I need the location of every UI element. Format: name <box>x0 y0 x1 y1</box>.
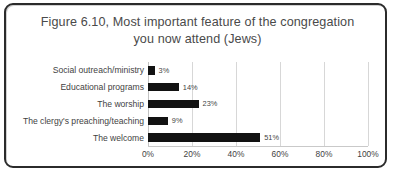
x-tick-label: 80% <box>316 149 333 159</box>
bar-value-label: 51% <box>264 133 279 142</box>
bar-container: 23% <box>148 96 389 113</box>
chart-title: Figure 6.10, Most important feature of t… <box>20 14 375 47</box>
x-axis-line <box>148 146 368 147</box>
bar-row: Educational programs 14% <box>6 79 389 96</box>
bar-row: Social outreach/ministry 3% <box>6 62 389 79</box>
bar-the-welcome <box>148 133 260 141</box>
bar-clergys-preaching-teaching <box>148 117 168 125</box>
chart-title-line-1: Figure 6.10, Most important feature of t… <box>20 14 375 31</box>
bar-rows: Social outreach/ministry 3% Educational … <box>6 62 389 146</box>
bar-value-label: 3% <box>159 66 170 75</box>
bar-container: 51% <box>148 129 389 146</box>
bar-row: The clergy's preaching/teaching 9% <box>6 112 389 129</box>
x-axis-tick-labels: 0% 20% 40% 60% 80% 100% <box>148 149 368 163</box>
category-label: Social outreach/ministry <box>6 65 148 75</box>
bar-row: The welcome 51% <box>6 129 389 146</box>
bar-the-worship <box>148 100 199 108</box>
x-tick-label: 40% <box>228 149 245 159</box>
bar-container: 14% <box>148 79 389 96</box>
plot-area: Social outreach/ministry 3% Educational … <box>6 57 389 167</box>
chart-title-line-2: you now attend (Jews) <box>20 31 375 48</box>
category-label: Educational programs <box>6 82 148 92</box>
bar-value-label: 23% <box>203 99 218 108</box>
x-tick-label: 0% <box>142 149 154 159</box>
category-label: The worship <box>6 99 148 109</box>
bar-value-label: 9% <box>172 116 183 125</box>
bar-row: The worship 23% <box>6 96 389 113</box>
bar-social-outreach-ministry <box>148 66 155 74</box>
x-tick-label: 20% <box>184 149 201 159</box>
figure-frame: Figure 6.10, Most important feature of t… <box>4 3 387 168</box>
bar-container: 9% <box>148 112 389 129</box>
bar-educational-programs <box>148 83 179 91</box>
bar-container: 3% <box>148 62 389 79</box>
category-label: The clergy's preaching/teaching <box>6 116 148 126</box>
x-tick-label: 60% <box>272 149 289 159</box>
bar-value-label: 14% <box>183 83 198 92</box>
x-tick-label: 100% <box>357 149 378 159</box>
category-label: The welcome <box>6 133 148 143</box>
